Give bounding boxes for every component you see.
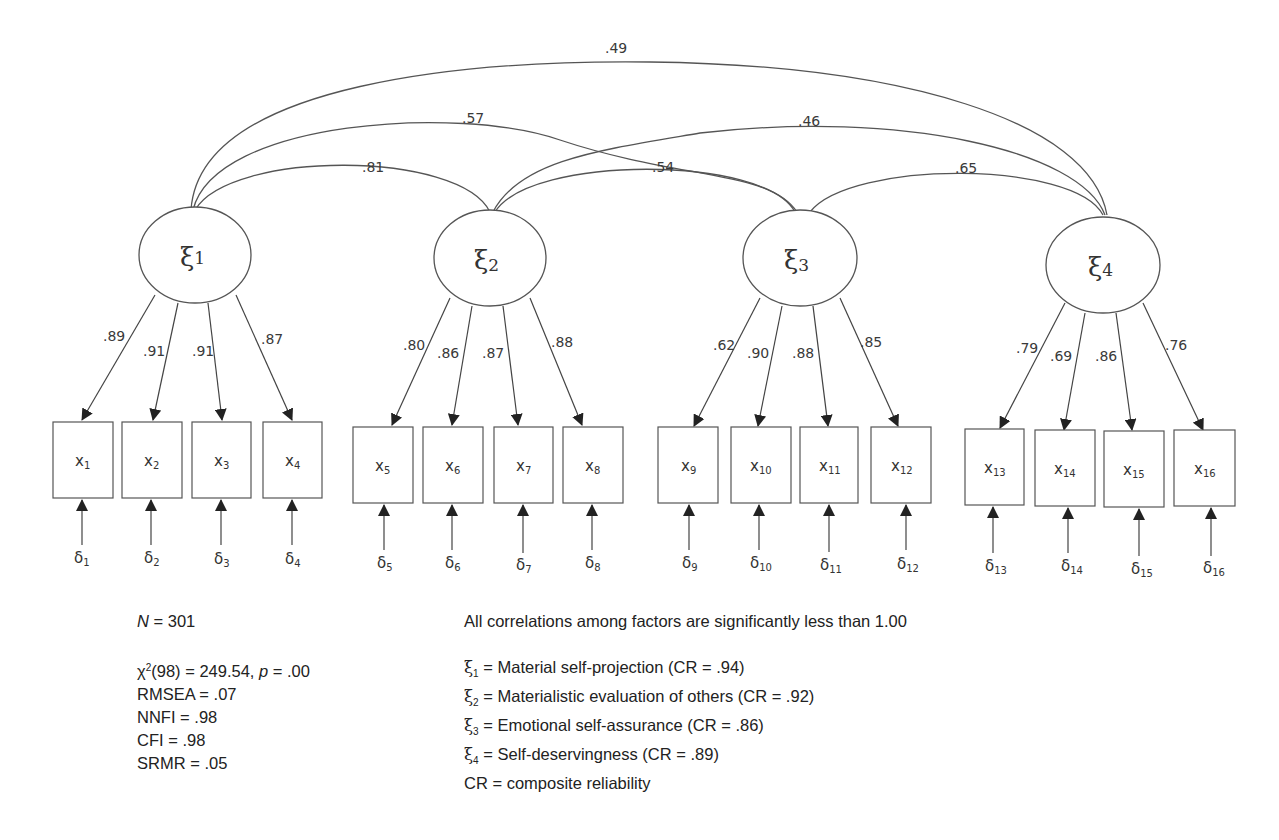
factor-xi3: ξ3 (743, 210, 857, 306)
cfi: CFI = .98 (137, 729, 310, 752)
svg-text:δ1: δ1 (74, 549, 90, 568)
svg-text:.80: .80 (403, 337, 425, 353)
arc-xi1-xi2 (195, 165, 490, 212)
svg-text:.62: .62 (713, 337, 735, 353)
svg-text:δ16: δ16 (1203, 559, 1225, 578)
svg-text:δ15: δ15 (1131, 560, 1153, 579)
svg-text:.88: .88 (551, 334, 573, 350)
factor-xi1: ξ1 (139, 207, 251, 303)
rmsea: RMSEA = .07 (137, 683, 310, 706)
correlation-arcs (191, 62, 1107, 215)
svg-text:.91: .91 (143, 343, 165, 359)
svg-text:δ2: δ2 (144, 549, 160, 568)
nnfi: NNFI = .98 (137, 706, 310, 729)
corr-label-13: .57 (462, 110, 484, 126)
svg-text:δ11: δ11 (820, 556, 842, 575)
factor-xi2: ξ2 (434, 210, 546, 306)
svg-text:.89: .89 (103, 328, 125, 344)
legend-item-xi3: ξ3 = Emotional self-assurance (CR = .86) (464, 714, 907, 743)
factor-xi4: ξ4 (1046, 217, 1160, 313)
svg-text:δ9: δ9 (682, 554, 698, 573)
cfa-path-diagram: .81 .54 .65 .57 .46 .49 ξ1 ξ2 ξ3 ξ4 (0, 0, 1279, 600)
error-labels: δ1 δ2 δ3 δ4 δ5 δ6 δ7 δ8 δ9 δ10 δ11 δ12 δ… (74, 549, 1225, 579)
corr-label-24: .46 (798, 113, 820, 129)
corr-label-34: .65 (955, 160, 977, 176)
cr-definition: CR = composite reliability (464, 772, 907, 795)
svg-text:δ14: δ14 (1061, 557, 1083, 576)
legend-item-xi4: ξ4 = Self-deservingness (CR = .89) (464, 743, 907, 772)
arc-xi2-xi4 (493, 126, 1105, 215)
fit-statistics: N = 301 χ2(98) = 249.54, p = .00 RMSEA =… (137, 610, 310, 775)
svg-text:δ13: δ13 (985, 557, 1007, 576)
svg-text:.69: .69 (1050, 348, 1072, 364)
svg-text:δ10: δ10 (750, 554, 772, 573)
loading-labels: .89 .91 .91 .87 .80 .86 .87 .88 .62 .90 … (103, 328, 1187, 364)
arc-xi3-xi4 (810, 173, 1103, 215)
svg-text:.91: .91 (192, 343, 214, 359)
correlation-labels: .81 .54 .65 .57 .46 .49 (362, 40, 977, 176)
svg-text:δ8: δ8 (585, 554, 601, 573)
svg-text:.90: .90 (747, 345, 769, 361)
srmr: SRMR = .05 (137, 752, 310, 775)
svg-text:δ7: δ7 (516, 556, 532, 575)
legend-item-xi2: ξ2 = Materialistic evaluation of others … (464, 685, 907, 714)
correlation-note: All correlations among factors are signi… (464, 610, 907, 633)
chi-square: χ2(98) = 249.54, p = .00 (137, 656, 310, 683)
svg-text:.85: .85 (860, 334, 882, 350)
svg-text:.86: .86 (437, 345, 459, 361)
svg-text:δ5: δ5 (377, 554, 393, 573)
arc-xi1-xi3 (193, 123, 797, 212)
svg-text:.87: .87 (261, 331, 283, 347)
svg-text:.86: .86 (1095, 348, 1117, 364)
arc-xi2-xi3 (495, 169, 795, 212)
sample-size: N = 301 (137, 610, 310, 633)
svg-text:.88: .88 (792, 345, 814, 361)
svg-text:.76: .76 (1165, 337, 1187, 353)
svg-text:δ4: δ4 (285, 550, 301, 569)
svg-text:δ3: δ3 (214, 550, 230, 569)
arc-xi1-xi4 (191, 62, 1107, 215)
svg-text:.87: .87 (482, 345, 504, 361)
svg-text:δ12: δ12 (897, 555, 919, 574)
corr-label-12: .81 (362, 159, 384, 175)
legend-item-xi1: ξ1 = Material self-projection (CR = .94) (464, 656, 907, 685)
corr-label-23: .54 (652, 159, 674, 175)
corr-label-14: .49 (605, 40, 627, 56)
loading-arrows (82, 295, 1203, 430)
error-arrows (82, 500, 1211, 556)
factor-legend: All correlations among factors are signi… (464, 610, 907, 795)
svg-text:.79: .79 (1016, 340, 1038, 356)
svg-text:δ6: δ6 (445, 554, 461, 573)
